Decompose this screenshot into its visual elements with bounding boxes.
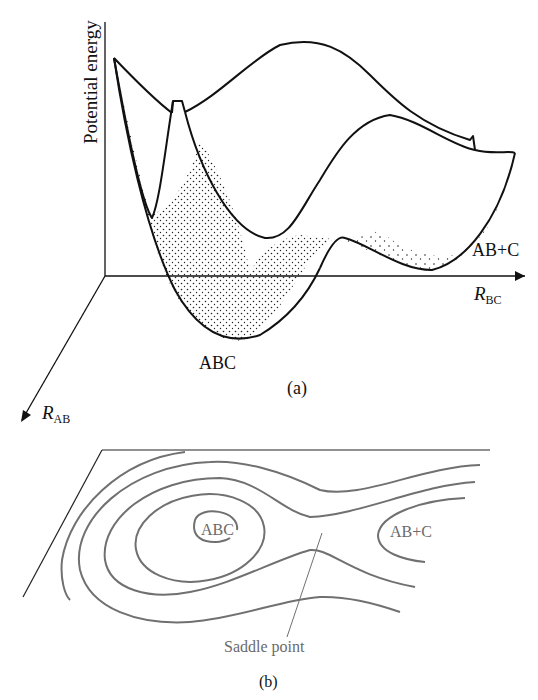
x-axis-label-sub: BC [486,293,502,307]
x-axis-label: RBC [474,283,502,308]
x-axis-label-main: R [474,283,486,304]
x-axis-arrowhead [515,271,525,281]
caption-a: (a) [287,378,307,399]
caption-b: (b) [259,673,278,691]
contour-map [23,450,490,637]
z-axis-line [22,276,105,420]
y-axis-label: Potential energy [80,20,102,144]
reactant-label-a: ABC [199,353,236,374]
reactant-label-b: ABC [201,521,234,539]
back-ridge [185,42,475,150]
product-label-b: AB+C [390,523,432,541]
saddle-point-label: Saddle point [224,638,304,656]
z-axis-label-sub: AB [54,412,71,426]
product-label-a: AB+C [472,240,519,261]
z-axis-label-main: R [42,402,54,423]
surface-outlines [114,42,515,339]
z-axis-label: RAB [42,402,70,427]
peak-tab [172,101,185,113]
left-valley [114,58,173,218]
contour-large [79,462,480,623]
saddle-pointer-line [287,533,322,637]
